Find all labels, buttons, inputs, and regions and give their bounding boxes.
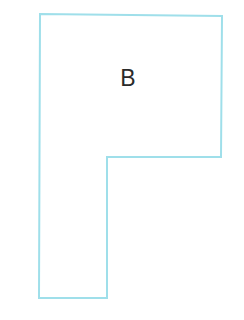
l-shape-polygon	[39, 14, 222, 298]
diagram-canvas: B	[0, 0, 244, 320]
shape-label: B	[108, 66, 148, 90]
l-shape-outline	[0, 0, 244, 320]
